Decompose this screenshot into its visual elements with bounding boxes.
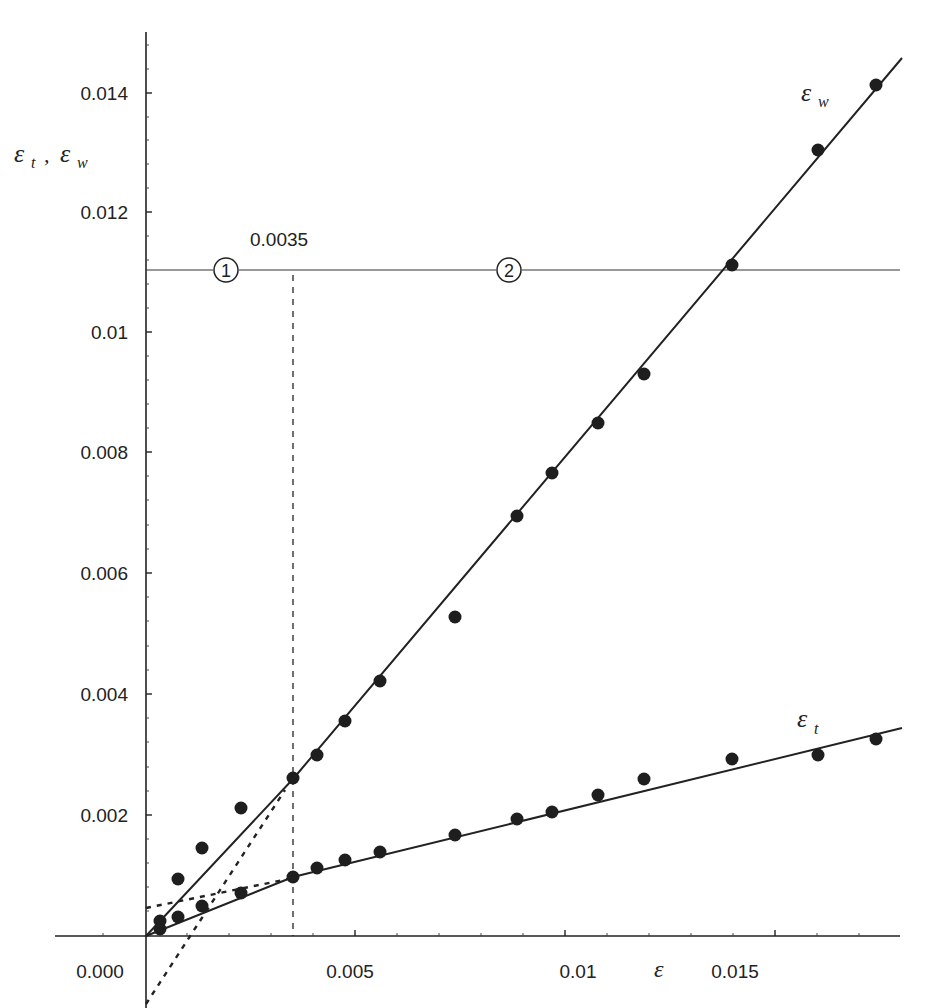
ew-points	[154, 79, 883, 928]
y-tick-label: 0.004	[80, 684, 128, 705]
svg-text:ε: ε	[801, 78, 812, 107]
svg-text:1: 1	[221, 261, 231, 281]
svg-text:ε: ε	[14, 139, 25, 168]
extrapolation-lines	[146, 790, 293, 1004]
chart: 0.002 0.004 0.006 0.008 0.01 0.012 0.014…	[0, 0, 940, 1008]
y-tick-label: 0.006	[80, 563, 128, 584]
svg-text:t: t	[814, 720, 819, 737]
y-axis-label: ε t , ε w	[14, 139, 88, 171]
ew-fit-line	[146, 58, 902, 936]
et-series-label: ε t	[797, 704, 819, 737]
y-tick-label: 0.01	[91, 322, 128, 343]
y-tick-label: 0.014	[80, 83, 128, 104]
svg-text:2: 2	[504, 261, 514, 281]
x-tick-label: 0.000	[76, 961, 124, 982]
svg-text:w: w	[77, 154, 88, 171]
svg-text:,: ,	[44, 142, 50, 167]
svg-text:t: t	[31, 154, 36, 171]
svg-text:ε: ε	[60, 139, 71, 168]
axes	[55, 32, 900, 1008]
x-tick-label: 0.01	[560, 961, 597, 982]
threshold-label: 0.0035	[250, 229, 308, 250]
y-tick-labels: 0.002 0.004 0.006 0.008 0.01 0.012 0.014	[80, 83, 128, 826]
et-points	[154, 733, 883, 936]
y-tick-label: 0.008	[80, 442, 128, 463]
x-ticks	[355, 930, 775, 936]
y-tick-label: 0.012	[80, 202, 128, 223]
svg-text:w: w	[818, 93, 829, 110]
x-tick-label: 0.005	[326, 961, 374, 982]
ew-series-label: ε w	[801, 78, 829, 110]
svg-text:ε: ε	[797, 704, 808, 733]
y-ticks	[146, 93, 152, 815]
region-2-marker: 2	[497, 258, 521, 282]
et-fit-line	[146, 728, 902, 936]
region-1-marker: 1	[214, 258, 238, 282]
x-tick-label: 0.015	[711, 961, 759, 982]
y-tick-label: 0.002	[80, 805, 128, 826]
x-axis-label: ε	[654, 956, 664, 982]
